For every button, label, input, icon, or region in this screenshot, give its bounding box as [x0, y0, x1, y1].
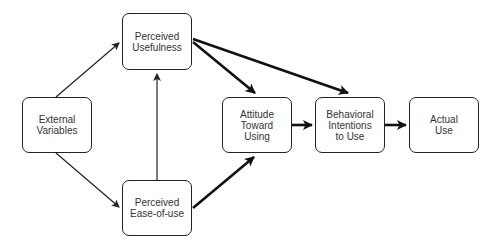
node-behavioral-intentions: Behavioral Intentions to Use — [315, 97, 385, 153]
edge-external-to-usefulness — [56, 43, 119, 97]
node-actual-use: Actual Use — [409, 97, 479, 153]
node-perceived-ease-of-use: Perceived Ease-of-use — [122, 180, 192, 236]
node-label: Attitude Toward Using — [240, 109, 274, 142]
node-label: Perceived Usefulness — [132, 31, 181, 53]
node-label: Actual Use — [430, 114, 458, 136]
edge-external-to-ease — [56, 153, 119, 207]
node-perceived-usefulness: Perceived Usefulness — [122, 13, 192, 70]
node-label: Behavioral Intentions to Use — [326, 109, 373, 142]
node-label: Perceived Ease-of-use — [130, 197, 184, 219]
node-label: External Variables — [37, 114, 78, 136]
node-external-variables: External Variables — [22, 97, 92, 153]
edge-usefulness-to-intentions — [193, 39, 348, 93]
edge-ease-to-attitude — [193, 157, 254, 208]
node-attitude-toward-using: Attitude Toward Using — [222, 97, 292, 153]
